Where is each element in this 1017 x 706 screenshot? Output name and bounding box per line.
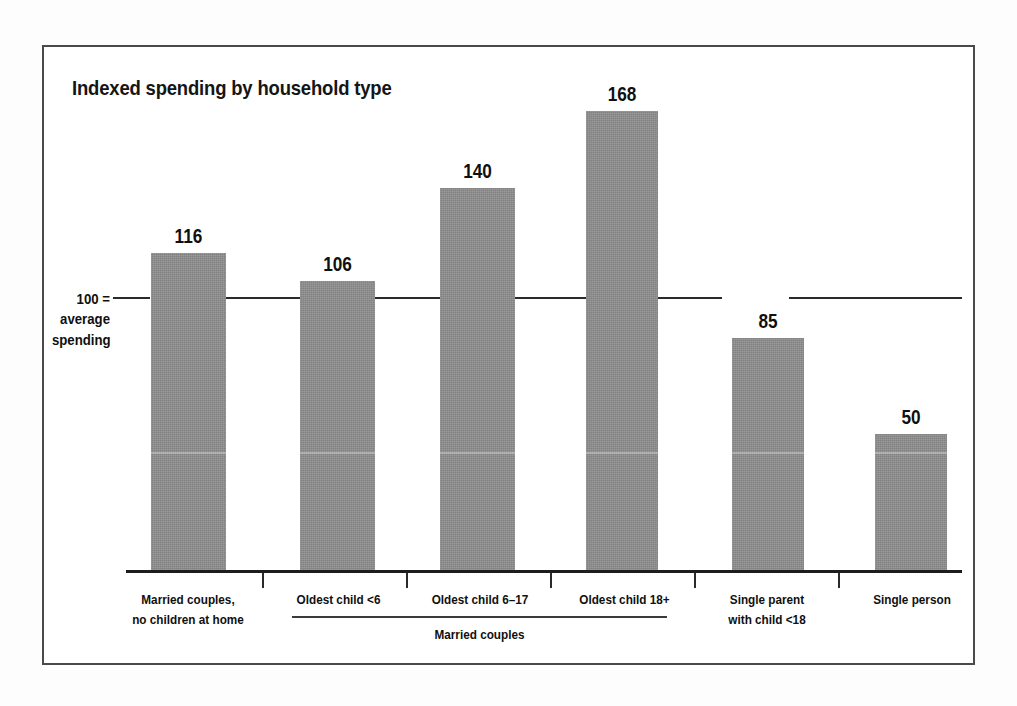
category-label-married-no-children: Married couples, no children at home [118,590,257,629]
bar-single-parent [732,338,804,570]
bar-single-person [875,434,947,570]
category-label-line: Oldest child <6 [275,590,401,610]
bar-value-label: 168 [591,83,653,106]
reference-line-segment [789,297,962,299]
bar-oldest-child-6-17 [440,188,515,570]
category-label-line: Single parent [705,590,829,610]
bar-oldest-child-under-6 [300,281,375,570]
plot-area: 116 106 140 168 85 50 100 = average spen… [44,47,977,667]
y-axis-caption: 100 = average spending [52,289,110,350]
reference-line-segment [515,297,587,299]
category-label-single-person: Single person [851,590,973,610]
category-label-line: with child <18 [705,610,829,630]
bar-value-label: 116 [156,225,221,248]
axis-tick [550,573,552,588]
group-bracket-rule [292,616,667,618]
category-label-line: Married couples, [118,590,257,610]
y-caption-line-1: 100 = [52,289,110,309]
category-label-line: no children at home [118,610,257,630]
category-label-oldest-child-under-6: Oldest child <6 [275,590,401,610]
page-canvas: Indexed spending by household type [0,0,1017,706]
bar-oldest-child-18-plus [586,111,658,570]
reference-line-segment [657,297,722,299]
bar-value-label: 85 [737,310,799,333]
category-label-oldest-child-6-17: Oldest child 6–17 [416,590,545,610]
bar-value-label: 106 [305,253,370,276]
category-label-single-parent: Single parent with child <18 [705,590,829,629]
category-label-line: Oldest child 18+ [561,590,687,610]
category-label-line: Oldest child 6–17 [416,590,545,610]
x-axis-baseline [126,570,962,573]
axis-tick [838,573,840,588]
bar-value-label: 140 [445,160,510,183]
axis-tick [262,573,264,588]
category-label-oldest-child-18-plus: Oldest child 18+ [561,590,687,610]
bar-value-label: 50 [880,406,942,429]
y-caption-line-3: spending [52,330,110,350]
category-label-line: Single person [851,590,973,610]
reference-line-segment [113,297,150,299]
group-label-married-couples: Married couples [316,627,642,642]
bar-married-no-children [151,253,226,570]
reference-line-segment [226,297,301,299]
chart-frame: Indexed spending by household type [42,45,975,665]
axis-tick [406,573,408,588]
reference-line-segment [374,297,440,299]
y-caption-line-2: average [52,309,110,329]
scan-artifact [144,452,954,454]
axis-tick [694,573,696,588]
